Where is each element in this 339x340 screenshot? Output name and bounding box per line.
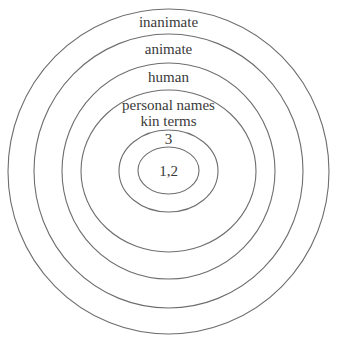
label-kin-terms: kin terms bbox=[140, 113, 196, 129]
label-animate: animate bbox=[145, 41, 193, 57]
label-human: human bbox=[148, 69, 189, 85]
ring-first-second-person: 1,2 bbox=[138, 147, 199, 194]
label-third-person: 3 bbox=[165, 131, 173, 147]
animacy-hierarchy-diagram: inanimate animate human personal names k… bbox=[0, 0, 339, 340]
label-inanimate: inanimate bbox=[139, 14, 198, 30]
label-first-second-person: 1,2 bbox=[159, 163, 178, 179]
label-personal-names: personal names bbox=[122, 97, 215, 113]
